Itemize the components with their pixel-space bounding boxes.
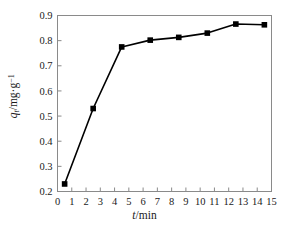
x-tick-label: 11 bbox=[209, 196, 219, 207]
y-tick-label: 0.7 bbox=[39, 60, 52, 71]
chart-canvas: 0123456789101112131415 0.20.30.40.50.60.… bbox=[0, 0, 289, 231]
x-tick-label: 12 bbox=[223, 196, 234, 207]
y-tick-label: 0.3 bbox=[39, 161, 52, 172]
data-point bbox=[90, 106, 96, 112]
x-tick-label: 1 bbox=[69, 196, 74, 207]
data-point bbox=[176, 35, 182, 41]
data-point bbox=[262, 22, 268, 28]
data-point bbox=[119, 44, 125, 50]
x-tick-label: 9 bbox=[183, 196, 188, 207]
x-tick-label: 2 bbox=[83, 196, 88, 207]
chart-figure: 0123456789101112131415 0.20.30.40.50.60.… bbox=[0, 0, 289, 231]
data-point bbox=[233, 21, 239, 27]
x-tick-label: 4 bbox=[112, 196, 118, 207]
x-tick-label: 7 bbox=[155, 196, 160, 207]
x-tick-label: 10 bbox=[195, 196, 206, 207]
x-tick-label: 8 bbox=[169, 196, 174, 207]
y-tick-label: 0.4 bbox=[39, 136, 53, 147]
y-tick-label: 0.5 bbox=[39, 111, 52, 122]
y-tick-label: 0.8 bbox=[39, 35, 52, 46]
x-tick-label: 5 bbox=[126, 196, 131, 207]
y-tick-label: 0.6 bbox=[39, 86, 52, 97]
x-tick-label: 15 bbox=[266, 196, 277, 207]
data-point bbox=[62, 181, 68, 187]
x-tick-label: 14 bbox=[252, 196, 263, 207]
y-tick-label: 0.2 bbox=[39, 186, 52, 197]
x-axis-title: t/min bbox=[0, 209, 289, 221]
x-tick-label: 3 bbox=[98, 196, 103, 207]
y-tick-label: 0.9 bbox=[39, 10, 52, 21]
data-point bbox=[205, 30, 211, 36]
x-tick-label: 13 bbox=[238, 196, 249, 207]
data-point bbox=[147, 37, 153, 43]
x-tick-label: 6 bbox=[140, 196, 145, 207]
x-tick-label: 0 bbox=[55, 196, 60, 207]
